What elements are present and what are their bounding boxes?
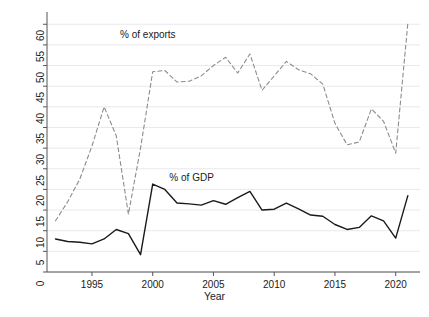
x-axis-title: Year — [0, 290, 429, 302]
y-tick-label: 60 — [35, 23, 46, 49]
x-tick-label: 2020 — [385, 279, 407, 290]
plot-canvas — [0, 0, 429, 317]
x-tick-label: 2000 — [142, 279, 164, 290]
series-label: % of exports — [120, 29, 176, 40]
x-tick-label: 2005 — [202, 279, 224, 290]
series-line-of-gdp — [56, 184, 408, 255]
series-line-of-exports — [56, 23, 408, 221]
natural-resources-rents-chart: Total natural resources rents Year 05101… — [0, 0, 429, 317]
x-tick-label: 2015 — [324, 279, 346, 290]
x-tick-label: 1995 — [81, 279, 103, 290]
x-tick-label: 2010 — [263, 279, 285, 290]
series-label: % of GDP — [169, 172, 213, 183]
